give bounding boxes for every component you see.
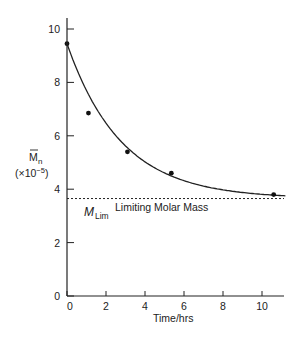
x-tick-label: 4 <box>142 300 148 312</box>
y-tick-label: 10 <box>48 23 60 35</box>
data-point <box>169 171 174 176</box>
data-point <box>125 149 130 154</box>
y-tick-label: 6 <box>54 130 60 142</box>
reference-text: Limiting Molar Mass <box>115 201 208 213</box>
chart: 0246810 0246810 M n (×10−5) Time/hrs M L… <box>0 0 299 340</box>
plot-area <box>65 41 286 198</box>
x-ticks: 0246810 <box>67 291 268 312</box>
reference-symbol: M <box>84 205 94 219</box>
y-axis-symbol: M <box>29 151 38 163</box>
reference-label: M Lim Limiting Molar Mass <box>84 201 208 221</box>
fitted-curve <box>67 44 285 196</box>
y-axis-scale: (×10−5) <box>15 166 48 179</box>
y-tick-label: 8 <box>54 76 60 88</box>
x-tick-label: 0 <box>67 300 73 312</box>
y-tick-label: 4 <box>54 183 60 195</box>
x-tick-label: 6 <box>181 300 187 312</box>
data-point <box>271 192 276 197</box>
data-point <box>86 111 91 116</box>
y-ticks: 0246810 <box>48 23 74 302</box>
y-axis-subscript: n <box>38 157 42 166</box>
y-axis-title: M n (×10−5) <box>15 150 48 179</box>
y-tick-label: 0 <box>54 290 60 302</box>
x-axis-title: Time/hrs <box>153 312 193 324</box>
x-tick-label: 10 <box>256 300 268 312</box>
x-tick-label: 2 <box>103 300 109 312</box>
x-tick-label: 8 <box>220 300 226 312</box>
reference-subscript: Lim <box>95 211 109 221</box>
y-tick-label: 2 <box>54 237 60 249</box>
